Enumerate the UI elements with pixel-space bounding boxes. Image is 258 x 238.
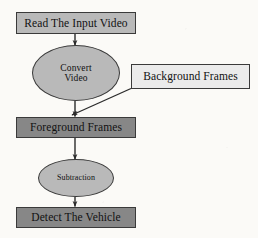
node-detect-the-vehicle-label: Detect The Vehicle bbox=[31, 211, 121, 223]
node-foreground-frames[interactable]: Foreground Frames bbox=[16, 117, 136, 138]
node-read-input-video-label: Read The Input Video bbox=[24, 17, 127, 29]
node-convert-video-label: Convert Video bbox=[60, 63, 91, 84]
node-subtraction-label: Subtraction bbox=[57, 174, 95, 183]
node-read-input-video[interactable]: Read The Input Video bbox=[16, 12, 136, 34]
node-foreground-frames-label: Foreground Frames bbox=[30, 121, 122, 133]
node-background-frames-label: Background Frames bbox=[143, 70, 238, 82]
node-subtraction[interactable]: Subtraction bbox=[38, 159, 114, 197]
node-convert-video[interactable]: Convert Video bbox=[32, 45, 120, 101]
node-background-frames[interactable]: Background Frames bbox=[131, 64, 250, 89]
node-detect-the-vehicle[interactable]: Detect The Vehicle bbox=[16, 207, 136, 228]
flowchart-diagram: Read The Input Video Convert Video Backg… bbox=[0, 0, 258, 238]
